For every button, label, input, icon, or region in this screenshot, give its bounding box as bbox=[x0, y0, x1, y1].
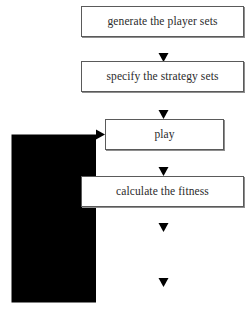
node-label: play bbox=[154, 128, 174, 140]
node-label: specify the strategy sets bbox=[106, 70, 218, 82]
edge-generate-to-specify bbox=[159, 37, 169, 62]
process-node-generate-player-sets[interactable]: generate the player sets bbox=[81, 6, 244, 37]
edge-crossover-to-play-feedback bbox=[12, 130, 106, 303]
edge-calculate-to-selection bbox=[159, 207, 169, 232]
process-node-play[interactable]: play bbox=[105, 119, 224, 150]
flowchart-connectors bbox=[0, 0, 251, 328]
process-node-calculate-fitness[interactable]: calculate the fitness bbox=[81, 176, 244, 207]
process-node-specify-strategy-sets[interactable]: specify the strategy sets bbox=[81, 61, 244, 92]
edge-selection-to-crossover bbox=[159, 263, 169, 287]
node-label: generate the player sets bbox=[108, 15, 218, 27]
edge-play-to-calculate bbox=[159, 150, 169, 176]
flowchart-diagram: generate the player sets specify the str… bbox=[0, 0, 251, 328]
node-label: calculate the fitness bbox=[116, 185, 209, 197]
edge-specify-to-play bbox=[159, 92, 169, 119]
